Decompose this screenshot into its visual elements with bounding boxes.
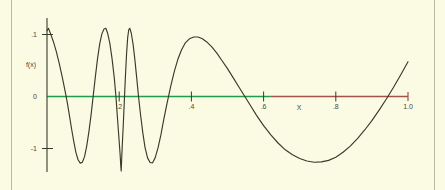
x-tick-label-4: 1.0 <box>403 103 413 110</box>
x-tick-label-2: .6 <box>261 103 267 110</box>
frame-border-left <box>11 0 12 190</box>
x-tick-label-1: .4 <box>188 103 194 110</box>
x-axis-label: X <box>297 104 302 111</box>
frame-border-right <box>434 0 435 190</box>
x-tick-label-3: .8 <box>333 103 339 110</box>
y-tick-label-top: .1 <box>31 31 37 38</box>
y-tick-label-bottom: -1 <box>31 145 37 152</box>
function-curve <box>47 28 408 171</box>
function-plot-chart: .2 .4 .6 .8 1.0 .1 0 -1 X f(x) <box>0 0 445 190</box>
y-axis-label: f(x) <box>26 61 36 69</box>
figure-panel: .2 .4 .6 .8 1.0 .1 0 -1 X f(x) <box>0 0 445 190</box>
y-tick-label-zero: 0 <box>33 93 37 100</box>
